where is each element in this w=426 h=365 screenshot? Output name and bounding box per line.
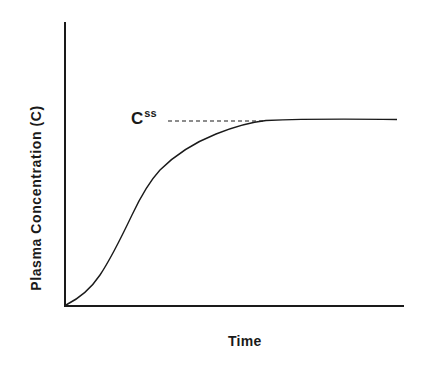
- x-axis-label: Time: [228, 333, 262, 349]
- concentration-curve: [66, 119, 397, 305]
- steady-state-label-base: C: [131, 109, 143, 128]
- steady-state-label: Css: [131, 110, 157, 127]
- y-axis-label: Plasma Concentration (C): [28, 105, 44, 291]
- steady-state-label-superscript: ss: [144, 107, 156, 119]
- chart-canvas: [0, 0, 426, 365]
